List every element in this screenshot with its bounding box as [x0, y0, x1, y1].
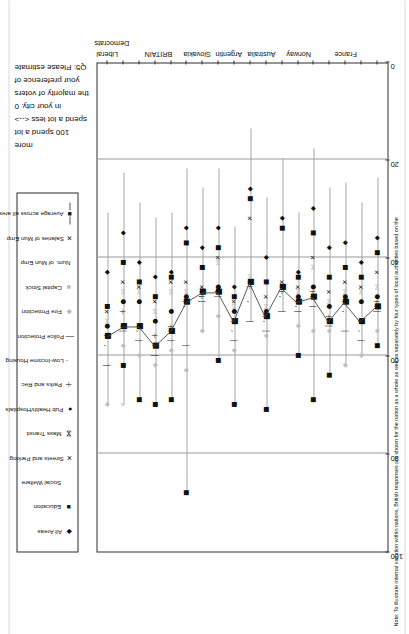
category-tick-mark — [106, 60, 107, 64]
legend-square-marker: ■ — [63, 504, 72, 508]
legend-x-marker: ✕ — [65, 235, 72, 241]
legend-item-label: Num. of Mun Emp — [20, 259, 70, 265]
legend-item: Low-Income Housingʼ — [21, 348, 72, 372]
category-tick-mark — [249, 60, 250, 64]
legend-item: Social Welfare — [21, 470, 72, 494]
category-tick-mark — [154, 60, 155, 64]
category-tick-mark — [185, 60, 186, 64]
category-tick-mark — [281, 60, 282, 64]
legend-item-label: Mass Transit — [26, 430, 61, 436]
category-label: France — [334, 49, 356, 58]
legend-item: All Areas◆ — [21, 519, 72, 543]
legend-light-diamond-marker: ◆ — [63, 308, 72, 313]
legend-item: Police Protection│ — [21, 323, 72, 347]
legend-item-label: Streets and Parking — [9, 454, 63, 460]
category-label-line2: Democrats — [94, 38, 129, 47]
legend-diamond-marker: ◆ — [63, 528, 72, 533]
legend-item-label: Capital Stock — [25, 283, 61, 289]
legend-circle-marker: ● — [65, 407, 72, 411]
legend-item: Parks and Rec＋ — [21, 372, 72, 396]
legend-item-label: Parks and Rec — [21, 381, 62, 387]
chart-legend: All Areas◆Education■Social WelfareStreet… — [16, 192, 78, 552]
chart-page: All Areas◆Education■Social WelfareStreet… — [0, 0, 409, 634]
legend-bowtie-marker: ⋈ — [63, 430, 72, 437]
category-tick-mark — [170, 60, 171, 64]
legend-item-label: Average across all areas — [0, 210, 63, 216]
legend-item: Capital Stock■ — [21, 274, 72, 298]
category-tick-mark — [297, 60, 298, 64]
footnote-text: Note: To illustrate internal variation w… — [393, 0, 398, 634]
legend-item: Fire Protection◆ — [21, 299, 72, 323]
legend-item: Education■ — [21, 494, 72, 518]
legend-item-label: All Areas — [37, 528, 61, 534]
category-tick-mark — [122, 60, 123, 64]
category-tick-mark — [360, 60, 361, 64]
plot-frame: ◆■✕⋈●＋ʼ│◆■◆■✕⋈●＋ʼ│◆■✕■◆■✕⋈●＋ʼ│◆■■◆■✕⋈●＋ʼ… — [96, 62, 388, 552]
legend-item-label: Social Welfare — [21, 479, 61, 485]
category-label: Slovakia — [183, 49, 210, 58]
question-line: your preference of — [14, 75, 79, 83]
legend-item-label: Pub Health/Hospitals — [5, 406, 63, 412]
legend-tick-marker: ʼ — [65, 359, 72, 361]
question-line: more — [14, 140, 32, 148]
axis-tick-mark — [385, 61, 389, 62]
chart-plot-area: ◆■✕⋈●＋ʼ│◆■◆■✕⋈●＋ʼ│◆■✕■◆■✕⋈●＋ʼ│◆■■◆■✕⋈●＋ʼ… — [96, 62, 388, 552]
footnote: Note: To illustrate internal variation w… — [393, 0, 407, 634]
category-label: Argentin — [215, 49, 242, 58]
question-line: Q5: Please estimate — [14, 62, 86, 70]
category-tick-mark — [217, 60, 218, 64]
legend-item: Num. of Mun Emp — [21, 250, 72, 274]
category-tick-mark — [344, 60, 345, 64]
legend-item-label: Salaries of Mun Emp — [6, 235, 63, 241]
legend-x-marker: ✕ — [65, 455, 72, 461]
legend-item-label: Fire Protection — [21, 308, 61, 314]
category-tick-mark — [376, 60, 377, 64]
question-line: spend a lot less <--> — [14, 114, 86, 122]
legend-square-line-marker: ■ — [65, 202, 72, 224]
axis-tick-mark — [385, 551, 389, 552]
category-label: Liberal — [96, 49, 118, 58]
legend-item-label: Police Protection — [17, 332, 63, 338]
axis-tick-mark — [385, 453, 389, 454]
legend-light-square-marker: ■ — [63, 284, 72, 288]
category-label: BRITAIN — [144, 49, 172, 58]
axis-tick-mark — [385, 257, 389, 258]
category-label: Norway — [286, 49, 310, 58]
average-connector-line — [97, 63, 387, 551]
scanned-page-frame: All Areas◆Education■Social WelfareStreet… — [0, 0, 409, 634]
category-tick-mark — [265, 60, 266, 64]
scan-edge-top — [8, 0, 9, 634]
legend-item: Salaries of Mun Emp✕ — [21, 226, 72, 250]
question-line: the majority of voters — [14, 88, 88, 96]
legend-item-label: Education — [33, 503, 61, 509]
category-tick-mark — [312, 60, 313, 64]
legend-item: Average across all areas■ — [21, 201, 72, 225]
legend-item-label: Low-Income Housing — [5, 357, 63, 363]
category-tick-mark — [201, 60, 202, 64]
question-line: 100 spend a lot — [14, 127, 69, 135]
category-tick-mark — [138, 60, 139, 64]
category-tick-mark — [328, 60, 329, 64]
axis-tick-mark — [385, 159, 389, 160]
legend-item: Pub Health/Hospitals● — [21, 396, 72, 420]
axis-tick-mark — [385, 355, 389, 356]
category-label: Australia — [247, 49, 275, 58]
category-axis: FranceNorwayAustraliaArgentinSlovakiaBRI… — [96, 4, 388, 60]
legend-item: Streets and Parking✕ — [21, 445, 72, 469]
category-tick-mark — [233, 60, 234, 64]
legend-item: Mass Transit⋈ — [21, 421, 72, 445]
question-line: in your city. 0 — [14, 101, 61, 109]
legend-plus-marker: ＋ — [64, 381, 72, 388]
legend-bar-marker: │ — [65, 333, 72, 337]
